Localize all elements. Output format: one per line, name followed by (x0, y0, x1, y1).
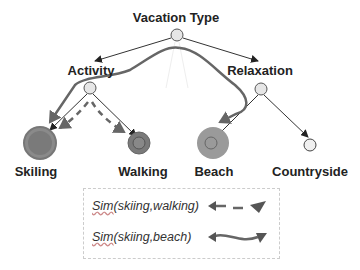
edge-relaxation-countryside (264, 95, 308, 137)
legend-item-skiing-beach: Sim(skiing,beach) (92, 230, 191, 244)
label-relaxation: Relaxation (227, 63, 293, 78)
label-skiling: Skiling (15, 164, 58, 179)
sim-path-skiing-beach-right (180, 48, 246, 122)
edge-vacation-relaxation (183, 38, 258, 61)
node-relaxation (255, 83, 267, 95)
sim-path-skiing-walking-right (92, 102, 124, 132)
node-activity (84, 82, 96, 94)
legend-sim-label: Sim (92, 199, 114, 213)
legend-item-skiing-walking: Sim(skiing,walking) (92, 199, 199, 213)
sim-path-skiing-walking-left (60, 102, 88, 128)
label-beach: Beach (194, 164, 233, 179)
legend-box: Sim(skiing,walking) Sim(skiing,beach) (83, 188, 280, 259)
node-vacation-type (171, 29, 183, 41)
label-countryside: Countryside (272, 164, 348, 179)
node-skiling-inner (28, 131, 52, 155)
node-walking-inner (133, 137, 145, 149)
node-beach-inner (205, 137, 217, 149)
node-countryside (304, 139, 316, 151)
label-activity: Activity (68, 63, 115, 78)
label-walking: Walking (118, 164, 167, 179)
legend-sim-label: Sim (92, 230, 114, 244)
edge-vacation-activity (95, 38, 171, 61)
label-vacation-type: Vacation Type (133, 10, 219, 25)
legend-args: (skiing,walking) (114, 199, 199, 213)
edge-activity-walking (93, 94, 136, 136)
legend-args: (skiing,beach) (114, 230, 192, 244)
